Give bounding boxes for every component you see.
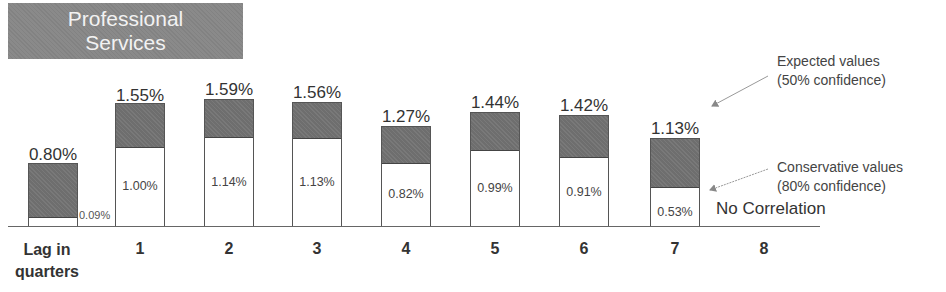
expected-arrow-icon <box>712 76 768 106</box>
annotation-arrows <box>0 0 946 292</box>
conservative-arrow-icon <box>710 169 768 190</box>
bar-chart: 0.80% 0.09% 1.55% 1.00% 1.59% 1.14% 1.56… <box>0 0 946 292</box>
